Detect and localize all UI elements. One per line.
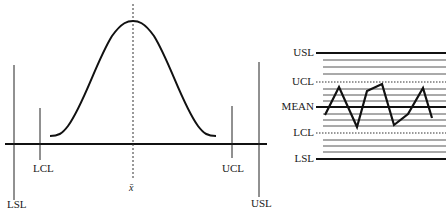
chart-lcl-label: LCL <box>274 127 314 138</box>
control-chart <box>316 53 446 159</box>
lcl-label: LCL <box>33 163 54 174</box>
chart-usl-label: USL <box>274 47 314 58</box>
lsl-label: LSL <box>7 199 27 210</box>
bell-curve <box>50 21 216 136</box>
ucl-label: UCL <box>222 163 244 174</box>
chart-lsl-label: LSL <box>274 153 314 164</box>
mean-label: x̄ <box>129 182 133 193</box>
usl-label: USL <box>251 198 272 209</box>
diagram-canvas <box>0 0 446 212</box>
chart-ucl-label: UCL <box>274 76 314 87</box>
chart-mean-label: MEAN <box>274 101 314 112</box>
process-data-line <box>325 84 432 127</box>
